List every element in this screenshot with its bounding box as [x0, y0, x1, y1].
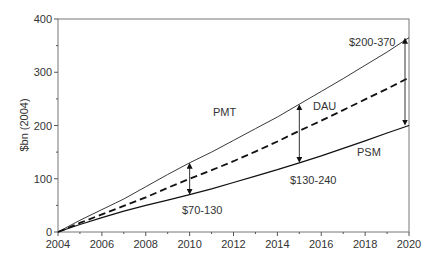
y-tick-label: 200: [34, 120, 52, 132]
x-tick-label: 2008: [134, 238, 158, 250]
y-tick-label: 400: [34, 13, 52, 25]
annotation-2020: $200-370: [349, 36, 396, 48]
chart: 0100200300400 20042006200820102012201420…: [0, 0, 436, 267]
y-tick-label: 0: [46, 226, 52, 238]
x-tick-label: 2014: [265, 238, 289, 250]
x-tick-label: 2016: [309, 238, 333, 250]
annotation-2010: $70-130: [182, 204, 222, 216]
series-label-dau: DAU: [313, 100, 336, 112]
y-tick-label: 300: [34, 66, 52, 78]
y-axis: 0100200300400: [34, 13, 58, 238]
series-layer: [58, 38, 409, 232]
plot-frame: [58, 19, 409, 232]
x-tick-label: 2012: [221, 238, 245, 250]
x-axis: 200420062008201020122014201620182020: [46, 232, 421, 250]
x-tick-label: 2018: [353, 238, 377, 250]
annotation-2015: $130-240: [290, 174, 337, 186]
y-axis-label: $bn (2004): [18, 98, 30, 151]
series-label-pmt: PMT: [213, 106, 237, 118]
series-label-psm: PSM: [357, 146, 381, 158]
series-psm: [58, 126, 409, 233]
series-pmt: [58, 38, 409, 232]
x-tick-label: 2004: [46, 238, 70, 250]
x-tick-label: 2006: [90, 238, 114, 250]
x-tick-label: 2020: [397, 238, 421, 250]
y-tick-label: 100: [34, 173, 52, 185]
x-tick-label: 2010: [177, 238, 201, 250]
